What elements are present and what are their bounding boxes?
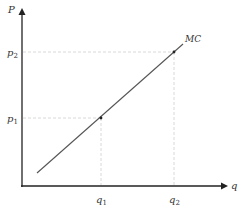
- p2-tick-label: p2: [7, 47, 18, 60]
- mc-chart: P q MC p2 p1 q1 q2: [0, 0, 240, 210]
- point-q2-p2: [173, 51, 176, 54]
- p1-tick-label: p1: [7, 113, 18, 126]
- mc-label: MC: [184, 34, 201, 44]
- y-axis-arrow-icon: [19, 8, 26, 15]
- point-q1-p1: [100, 117, 103, 120]
- q2-tick-label: q2: [169, 194, 180, 207]
- q1-tick-label: q1: [96, 194, 107, 207]
- x-axis-label: q: [231, 180, 237, 191]
- y-axis-label: P: [7, 4, 15, 15]
- x-axis-arrow-icon: [221, 183, 228, 190]
- mc-curve: [37, 44, 183, 173]
